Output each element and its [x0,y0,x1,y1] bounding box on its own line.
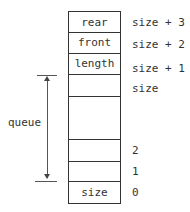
cell-0: size [68,181,121,204]
index-size: size [132,82,159,95]
arrow-down-icon [44,174,50,179]
memory-layout-diagram: rear front length size size + 3 size + 2… [0,0,190,212]
cell-2 [68,139,121,162]
index-1: 1 [132,165,139,178]
index-size-plus-1: size + 1 [132,62,185,75]
arrow-up-icon [44,76,50,81]
cell-front: front [68,32,121,54]
cell-length: length [68,53,121,75]
cell-rear: rear [68,11,121,33]
cell-middle [68,96,121,140]
index-size-plus-2: size + 2 [132,38,185,51]
index-0: 0 [132,186,139,199]
bracket-bottom [35,181,57,182]
queue-label: queue [8,116,41,129]
bracket-line [47,78,48,178]
cell-size-index [68,74,121,97]
index-2: 2 [132,144,139,157]
index-size-plus-3: size + 3 [132,16,185,29]
cell-1 [68,161,121,182]
